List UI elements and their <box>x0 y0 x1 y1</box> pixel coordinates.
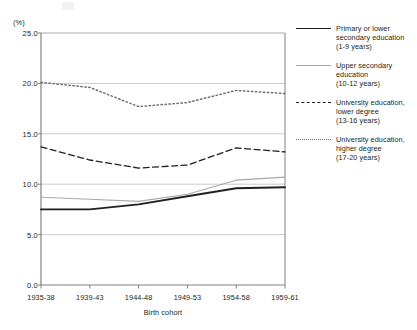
x-axis-title: Birth cohort <box>41 308 285 317</box>
legend-label: (13-16 years) <box>336 116 417 125</box>
legend-line-sample-icon <box>296 139 331 142</box>
legend-label: education <box>336 70 417 79</box>
x-tick-label: 1954-58 <box>222 293 249 302</box>
legend-label: Upper secondary <box>336 61 417 70</box>
legend-line-sample-icon <box>296 102 331 105</box>
legend-label: secondary education <box>336 33 417 42</box>
legend-label: Primary or lower <box>336 24 417 33</box>
series-line-2 <box>41 147 285 168</box>
legend-label: University education, <box>336 98 417 107</box>
chart-figure: (%) 0.05.010.015.020.025.0 1935-381939-4… <box>0 0 417 330</box>
legend-label: (1-9 years) <box>336 42 417 51</box>
legend-item[interactable]: Primary or lowersecondary education(1-9 … <box>296 24 417 52</box>
legend-line-sample-icon <box>296 65 331 68</box>
x-tick-label: 1944-48 <box>125 293 152 302</box>
legend-item[interactable]: Upper secondaryeducation(10-12 years) <box>296 61 417 89</box>
x-tick-label: 1935-38 <box>27 293 54 302</box>
legend-label: higher degree <box>336 144 417 153</box>
chart-legend: Primary or lowersecondary education(1-9 … <box>296 24 417 172</box>
legend-label: University education, <box>336 135 417 144</box>
series-line-3 <box>41 82 285 106</box>
legend-label: (17-20 years) <box>336 153 417 162</box>
legend-item[interactable]: University education,higher degree(17-20… <box>296 135 417 163</box>
x-tick-label: 1949-53 <box>174 293 201 302</box>
legend-item[interactable]: University education,lower degree(13-16 … <box>296 98 417 126</box>
legend-line-sample-icon <box>296 28 331 31</box>
legend-label: lower degree <box>336 107 417 116</box>
legend-label: (10-12 years) <box>336 79 417 88</box>
series-line-1 <box>41 177 285 201</box>
x-tick-label: 1939-43 <box>76 293 103 302</box>
x-tick-label: 1959-61 <box>271 293 298 302</box>
